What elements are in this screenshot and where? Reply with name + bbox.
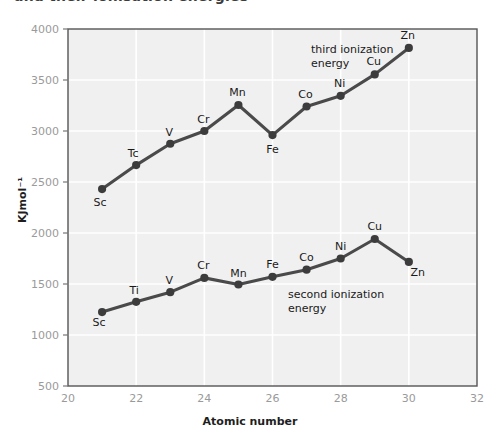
data-point-label: Co xyxy=(298,88,313,101)
data-point-marker xyxy=(132,161,140,169)
third-ionization-annotation-line2: energy xyxy=(311,57,350,70)
data-point-label: Ni xyxy=(334,77,345,90)
x-axis-tick-label: 30 xyxy=(402,392,416,405)
data-point-marker xyxy=(132,298,140,306)
data-point-marker xyxy=(200,274,208,282)
data-point-label: Mn xyxy=(229,86,245,99)
second-ionization-annotation-line2: energy xyxy=(288,302,327,315)
data-point-label: Cr xyxy=(197,113,210,126)
data-point-label: Mn xyxy=(230,267,246,280)
y-axis-tick-label: 4000 xyxy=(31,23,59,36)
x-axis-tick-label: 28 xyxy=(334,392,348,405)
x-axis: 20222426283032 xyxy=(61,392,484,405)
data-point-marker xyxy=(371,235,379,243)
x-axis-tick-label: 32 xyxy=(470,392,484,405)
data-point-marker xyxy=(337,254,345,262)
y-axis-tick-label: 3000 xyxy=(31,125,59,138)
data-point-label: Co xyxy=(299,251,314,264)
data-point-label: Fe xyxy=(266,143,279,156)
third-ionization-annotation-line1: third ionization xyxy=(311,43,394,56)
data-point-marker xyxy=(268,131,276,139)
x-axis-tick-label: 26 xyxy=(266,392,280,405)
y-axis-tick-label: 2000 xyxy=(31,227,59,240)
data-point-label: Sc xyxy=(94,196,107,209)
y-axis-tick-label: 3500 xyxy=(31,74,59,87)
ionization-energy-line-chart: 4000350030002500200015001000500 20222426… xyxy=(0,0,497,435)
data-point-marker xyxy=(302,102,310,110)
x-axis-title: Atomic number xyxy=(203,415,298,428)
data-point-marker xyxy=(371,70,379,78)
data-point-label: Cu xyxy=(367,220,382,233)
chart-page: and their ionisation energies 4000350030… xyxy=(0,0,497,435)
data-point-marker xyxy=(337,92,345,100)
data-point-label: V xyxy=(165,126,173,139)
y-axis-tick-label: 500 xyxy=(38,380,59,393)
data-point-marker xyxy=(268,273,276,281)
data-point-label: Fe xyxy=(266,258,279,271)
data-point-marker xyxy=(98,185,106,193)
y-axis-tick-label: 2500 xyxy=(31,176,59,189)
data-point-label: Sc xyxy=(93,316,106,329)
data-point-label: Tc xyxy=(127,147,139,160)
x-axis-tick-label: 24 xyxy=(197,392,211,405)
data-point-marker xyxy=(166,288,174,296)
y-axis-tick-label: 1000 xyxy=(31,329,59,342)
data-point-marker xyxy=(98,308,106,316)
data-point-label: Zn xyxy=(411,266,426,279)
data-point-marker xyxy=(405,44,413,52)
second-ionization-annotation-line1: second ionization xyxy=(288,288,384,301)
data-point-marker xyxy=(405,258,413,266)
x-axis-tick-label: 22 xyxy=(129,392,143,405)
data-point-label: Ti xyxy=(128,284,138,297)
data-point-marker xyxy=(166,140,174,148)
data-point-marker xyxy=(234,101,242,109)
data-point-marker xyxy=(200,127,208,135)
y-axis-title: KJmol⁻¹ xyxy=(16,177,29,223)
data-point-label: Cr xyxy=(197,259,210,272)
data-point-marker xyxy=(302,266,310,274)
y-axis-tick-label: 1500 xyxy=(31,278,59,291)
data-point-label: Cu xyxy=(366,55,381,68)
x-axis-tick-label: 20 xyxy=(61,392,75,405)
data-point-marker xyxy=(234,280,242,288)
data-point-label: V xyxy=(165,274,173,287)
data-point-label: Ni xyxy=(335,240,346,253)
data-point-label: Zn xyxy=(401,29,416,42)
y-axis: 4000350030002500200015001000500 xyxy=(31,23,68,393)
